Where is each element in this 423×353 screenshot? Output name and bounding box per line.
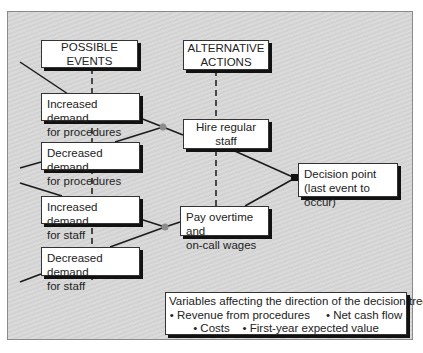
variables-title: Variables affecting the direction of the… [169, 295, 403, 309]
header-label: ACTIONS [200, 55, 251, 69]
variables-row: • Revenue from procedures • Net cash flo… [169, 309, 403, 323]
variables-legend: Variables affecting the direction of the… [165, 292, 407, 335]
event-decreased-demand-procedures: Decreased demand for procedures [41, 142, 140, 170]
event-label: for procedures [47, 174, 134, 188]
header-label: ALTERNATIVE [188, 41, 265, 55]
event-decreased-demand-staff: Decreased demand for staff [41, 247, 140, 276]
chance-node [162, 224, 169, 231]
event-increased-demand-procedures: Increased demand for procedures [41, 93, 140, 121]
action-label: Hire regular staff [189, 120, 263, 148]
event-label: for staff [47, 279, 134, 293]
action-pay-overtime: Pay overtime and on-call wages [180, 206, 269, 236]
decision-label: (last event to occur) [304, 181, 392, 209]
event-label: for procedures [47, 125, 134, 139]
decision-label: Decision point [304, 167, 392, 181]
header-possible-events: POSSIBLE EVENTS [41, 40, 138, 68]
event-label: Decreased demand [47, 146, 134, 174]
event-increased-demand-staff: Increased demand for staff [41, 196, 140, 224]
header-label: POSSIBLE EVENTS [47, 40, 132, 68]
event-label: for staff [47, 228, 134, 242]
event-label: Increased demand [47, 97, 134, 125]
chance-node [160, 124, 167, 131]
action-label: Pay overtime and [186, 210, 263, 238]
event-label: Decreased demand [47, 251, 134, 279]
header-alternative-actions: ALTERNATIVE ACTIONS [183, 40, 269, 70]
action-label: on-call wages [186, 238, 263, 252]
decision-point: Decision point (last event to occur) [298, 163, 398, 197]
variables-row: • Costs • First-year expected value [169, 322, 403, 336]
action-hire-regular-staff: Hire regular staff [183, 119, 269, 149]
decision-node [291, 174, 298, 181]
event-label: Increased demand [47, 200, 134, 228]
